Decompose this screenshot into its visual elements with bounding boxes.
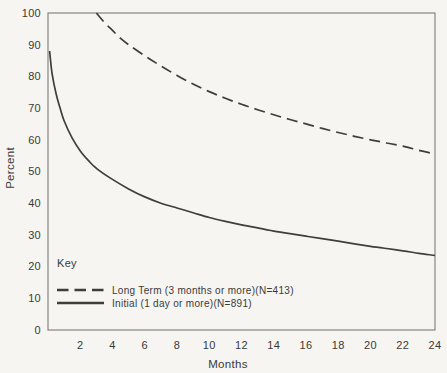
x-axis-tick-label: 12: [235, 339, 248, 351]
y-axis-title: Percent: [4, 147, 16, 189]
x-axis-tick-label: 16: [300, 339, 313, 351]
scanned-line-chart-figure: 0102030405060708090100246810121416182022…: [0, 0, 447, 373]
line-chart: 0102030405060708090100246810121416182022…: [0, 0, 447, 373]
y-axis-tick-label: 60: [28, 134, 41, 146]
x-axis-tick-label: 22: [396, 339, 409, 351]
y-axis-tick-label: 30: [28, 229, 41, 241]
x-axis-title: Months: [208, 358, 248, 370]
x-axis-tick-label: 2: [77, 339, 83, 351]
y-axis-tick-label: 70: [28, 102, 41, 114]
x-axis-tick-label: 14: [267, 339, 280, 351]
y-axis-tick-label: 40: [28, 197, 41, 209]
x-axis-tick-label: 8: [174, 339, 180, 351]
y-axis-tick-label: 0: [35, 324, 41, 336]
y-axis-tick-label: 100: [22, 7, 41, 19]
legend-label-initial: Initial (1 day or more)(N=891): [112, 298, 252, 309]
x-axis-tick-label: 18: [332, 339, 345, 351]
y-axis-tick-label: 50: [28, 165, 41, 177]
y-axis-tick-label: 10: [28, 292, 41, 304]
series-line-initial: [50, 51, 435, 256]
legend-title: Key: [57, 257, 77, 269]
legend: KeyLong Term (3 months or more)(N=413)In…: [57, 257, 294, 309]
x-axis-tick-label: 10: [203, 339, 216, 351]
x-axis-tick-label: 20: [364, 339, 377, 351]
y-axis-tick-label: 20: [28, 260, 41, 272]
series-line-long-term: [96, 13, 435, 154]
legend-label-long-term: Long Term (3 months or more)(N=413): [112, 285, 294, 296]
y-axis-tick-label: 90: [28, 39, 41, 51]
x-axis-tick-label: 4: [109, 339, 115, 351]
plot-border: [48, 13, 435, 330]
x-axis-tick-label: 24: [429, 339, 442, 351]
x-axis-tick-label: 6: [142, 339, 148, 351]
y-axis-tick-label: 80: [28, 70, 41, 82]
